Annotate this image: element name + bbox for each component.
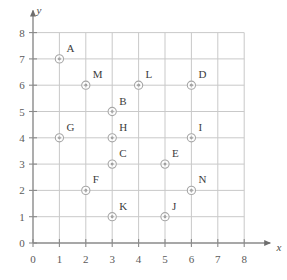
data-point-group: AMLDBGHICEFNKJ (55, 42, 206, 221)
y-tick-label: 5 (19, 106, 25, 118)
y-tick-label: 1 (19, 211, 25, 223)
point-label: A (66, 42, 74, 54)
data-point-j: J (161, 200, 177, 221)
point-label: F (93, 173, 99, 185)
x-tick-label: 6 (189, 253, 195, 265)
data-point-f: F (82, 173, 99, 194)
x-tick-label: 0 (30, 253, 36, 265)
point-marker-icon (55, 134, 63, 142)
data-point-h: H (108, 121, 127, 142)
point-label: G (66, 121, 74, 133)
point-label: E (172, 147, 179, 159)
y-tick-label: 0 (19, 237, 25, 249)
point-label: N (198, 173, 206, 185)
point-label: L (146, 68, 153, 80)
grid-lines (33, 33, 244, 243)
x-tick-label: 4 (136, 253, 142, 265)
data-point-n: N (187, 173, 206, 194)
point-label: K (119, 200, 127, 212)
x-axis-label: x (276, 241, 282, 253)
y-tick-label: 3 (19, 158, 25, 170)
point-label: J (172, 200, 177, 212)
point-label: M (93, 68, 103, 80)
x-tick-label: 8 (241, 253, 247, 265)
data-point-e: E (161, 147, 179, 168)
point-marker-icon (82, 81, 90, 89)
data-point-g: G (55, 121, 74, 142)
data-point-d: D (187, 68, 206, 89)
y-tick-label: 4 (19, 132, 25, 144)
x-tick-label: 3 (109, 253, 115, 265)
point-marker-icon (108, 107, 116, 115)
point-marker-icon (187, 81, 195, 89)
y-tick-label: 2 (19, 184, 25, 196)
x-tick-label: 5 (162, 253, 168, 265)
point-marker-icon (82, 186, 90, 194)
point-label: D (198, 68, 206, 80)
point-marker-icon (187, 186, 195, 194)
x-tick-label: 1 (57, 253, 63, 265)
data-point-a: A (55, 42, 74, 63)
point-label: H (119, 121, 127, 133)
point-marker-icon (161, 213, 169, 221)
y-tick-label: 7 (19, 53, 25, 65)
y-axis-label: y (36, 4, 42, 16)
data-point-m: M (82, 68, 103, 89)
point-marker-icon (108, 134, 116, 142)
x-tick-label: 7 (215, 253, 221, 265)
point-label: I (198, 121, 202, 133)
point-marker-icon (55, 55, 63, 63)
y-axis-tick-labels: 012345678 (19, 27, 25, 249)
x-tick-label: 2 (83, 253, 89, 265)
point-label: C (119, 147, 126, 159)
point-marker-icon (161, 160, 169, 168)
scatter-plot-canvas: 012345678 012345678 AMLDBGHICEFNKJ x y (0, 0, 287, 280)
point-marker-icon (135, 81, 143, 89)
data-point-b: B (108, 95, 126, 116)
point-label: B (119, 95, 126, 107)
point-marker-icon (108, 160, 116, 168)
point-marker-icon (108, 213, 116, 221)
data-point-k: K (108, 200, 127, 221)
point-marker-icon (187, 134, 195, 142)
y-tick-label: 8 (19, 27, 25, 39)
data-point-i: I (187, 121, 202, 142)
coordinate-plane-figure: 012345678 012345678 AMLDBGHICEFNKJ x y (0, 0, 287, 280)
data-point-l: L (135, 68, 153, 89)
data-point-c: C (108, 147, 126, 168)
x-axis-tick-labels: 012345678 (30, 253, 247, 265)
y-tick-label: 6 (19, 79, 25, 91)
